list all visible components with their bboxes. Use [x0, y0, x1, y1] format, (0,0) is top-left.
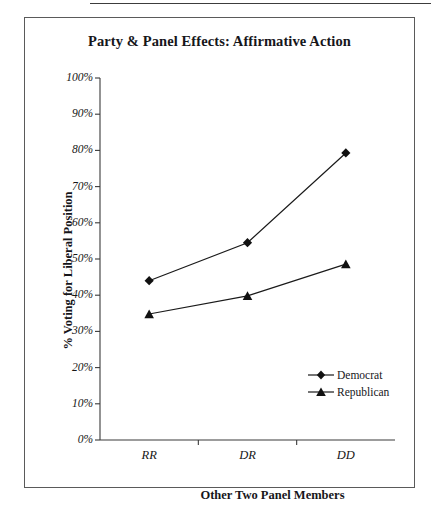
data-series-layer: [144, 148, 350, 318]
series-republican: [144, 259, 350, 318]
data-point-marker: [341, 259, 351, 268]
legend-label-republican: Republican: [335, 386, 389, 398]
y-tick-label: 0%: [49, 433, 93, 445]
x-axis-ticks: [198, 440, 296, 445]
y-tick-label: 60%: [49, 216, 93, 228]
y-tick-label: 20%: [49, 361, 93, 373]
x-tick-label: RR: [109, 448, 189, 463]
y-tick-label: 90%: [49, 107, 93, 119]
x-tick-label: DR: [208, 448, 288, 463]
legend-marker-triangle-icon: [307, 385, 335, 399]
y-tick-label: 50%: [49, 252, 93, 264]
y-tick-label: 40%: [49, 288, 93, 300]
legend-label-democrat: Democrat: [335, 369, 382, 381]
legend-item-democrat: Democrat: [307, 366, 389, 383]
x-tick-label: DD: [306, 448, 386, 463]
figure-page: Party & Panel Effects: Affirmative Actio…: [0, 0, 431, 508]
y-tick-label: 70%: [49, 180, 93, 192]
data-point-marker: [243, 291, 253, 300]
chart-legend: Democrat Republican: [307, 366, 389, 400]
legend-marker-diamond-icon: [307, 368, 335, 382]
y-tick-label: 80%: [49, 143, 93, 155]
legend-item-republican: Republican: [307, 383, 389, 400]
y-axis-ticks: [95, 78, 100, 440]
series-democrat: [145, 148, 351, 285]
y-tick-label: 10%: [49, 397, 93, 409]
y-tick-label: 100%: [49, 71, 93, 83]
y-tick-label: 30%: [49, 324, 93, 336]
data-point-marker: [145, 276, 154, 285]
